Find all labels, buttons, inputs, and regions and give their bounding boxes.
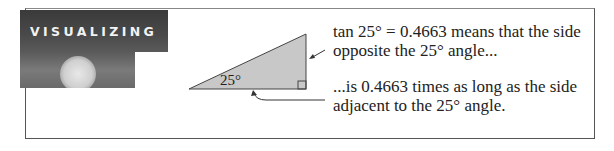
caption-adjacent-line2: adjacent to the 25° angle. (333, 96, 505, 115)
adjacent-arrow-icon (251, 90, 325, 100)
angle-label: 25° (220, 72, 241, 89)
caption-opposite-line1: tan 25° = 0.4663 means that the side (333, 22, 581, 41)
right-triangle (189, 34, 306, 89)
caption-opposite-line2: opposite the 25° angle... (333, 41, 498, 60)
caption-adjacent-line1: ...is 0.4663 times as long as the side (333, 77, 577, 96)
opposite-arrow-icon (309, 50, 325, 59)
